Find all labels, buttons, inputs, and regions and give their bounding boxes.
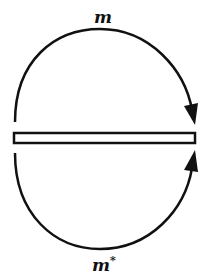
top-label-text: m [94,7,112,27]
bottom-label: m* [92,255,116,274]
bottom-label-text: m [92,255,110,275]
top-label: m [94,9,112,26]
bottom-label-superscript: * [110,254,116,267]
top-arrowhead-icon [184,103,198,125]
bar [14,133,195,143]
bottom-arc [15,153,192,249]
diagram-canvas [0,0,209,276]
top-arc [15,29,192,122]
bottom-arrowhead-icon [184,150,198,172]
